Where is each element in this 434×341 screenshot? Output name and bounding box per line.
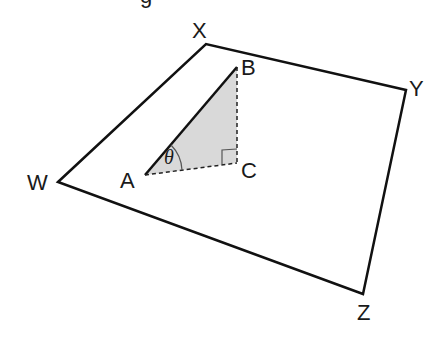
label-y: Y — [409, 76, 424, 101]
label-a: A — [120, 168, 135, 193]
label-w: W — [27, 170, 48, 195]
label-x: X — [192, 18, 207, 43]
geometry-diagram: g θ X Y Z W A B C — [0, 0, 434, 341]
label-c: C — [241, 158, 257, 183]
cropped-title-fragment: g — [140, 0, 152, 8]
theta-label: θ — [164, 146, 174, 168]
label-b: B — [241, 55, 256, 80]
label-z: Z — [357, 300, 370, 325]
